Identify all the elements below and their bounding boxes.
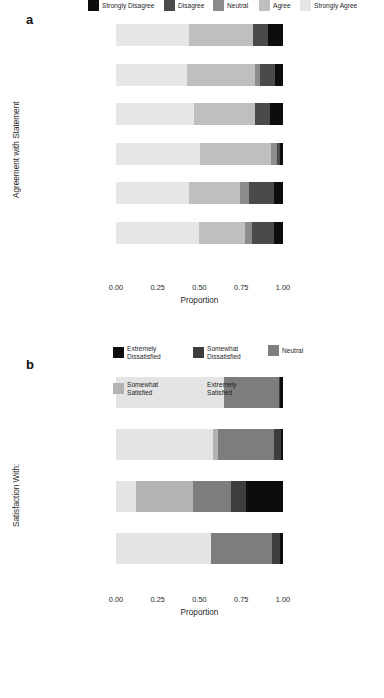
bar-segment bbox=[116, 143, 200, 165]
x-tick-label: 0.75 bbox=[234, 595, 248, 604]
bar-segment bbox=[193, 481, 231, 512]
panel-b-letter: b bbox=[26, 357, 34, 372]
legend-item: Neutral bbox=[213, 0, 248, 11]
stacked-bar bbox=[116, 533, 283, 564]
x-tick-label: 0.75 bbox=[234, 283, 248, 292]
legend-swatch-icon bbox=[193, 347, 204, 358]
x-axis-title: Proportion bbox=[116, 608, 283, 617]
bar-segment bbox=[116, 103, 194, 125]
bar-segment bbox=[200, 143, 271, 165]
legend-label: Somewhat Dissatisfied bbox=[207, 345, 241, 360]
stacked-bar bbox=[116, 481, 283, 512]
bar-segment bbox=[199, 222, 245, 244]
bar-segment bbox=[189, 182, 241, 204]
bar-segment bbox=[274, 182, 283, 204]
x-tick-label: 1.00 bbox=[276, 595, 290, 604]
bar-segment bbox=[268, 24, 283, 46]
bar-segment bbox=[194, 103, 255, 125]
stacked-bar bbox=[116, 103, 283, 125]
panel-a-y-axis-title: Agreement with Statement bbox=[12, 25, 21, 275]
bar-segment bbox=[260, 64, 275, 86]
bar-segment bbox=[211, 533, 272, 564]
x-tick-label: 0.00 bbox=[109, 595, 123, 604]
bar-segment bbox=[231, 481, 246, 512]
bar-segment bbox=[253, 24, 268, 46]
bar-segment bbox=[281, 429, 283, 460]
legend-swatch-icon bbox=[193, 383, 204, 394]
bar-segment bbox=[218, 429, 274, 460]
legend-item: Disagree bbox=[164, 0, 204, 11]
x-axis-title: Proportion bbox=[116, 296, 283, 305]
bar-segment bbox=[252, 222, 274, 244]
legend-label: Neutral bbox=[227, 2, 248, 10]
legend-item: Somewhat Dissatisfied bbox=[193, 345, 241, 360]
bar-segment bbox=[245, 222, 253, 244]
panel-b-y-axis-title: Satisfaction With: bbox=[12, 400, 21, 590]
legend-swatch-icon bbox=[268, 345, 279, 356]
bar-segment bbox=[270, 103, 283, 125]
bar-segment bbox=[272, 533, 280, 564]
bar-segment bbox=[249, 182, 274, 204]
bar-segment bbox=[274, 222, 283, 244]
legend-label: Strongly Agree bbox=[314, 2, 357, 10]
stacked-bar bbox=[116, 24, 283, 46]
legend-swatch-icon bbox=[259, 0, 270, 11]
bar-segment bbox=[116, 429, 213, 460]
legend-label: Extremely Satisfied bbox=[207, 381, 236, 396]
legend-label: Agree bbox=[273, 2, 291, 10]
legend-label: Neutral bbox=[282, 347, 303, 355]
bar-segment bbox=[136, 481, 193, 512]
panel-a-letter: a bbox=[26, 12, 33, 27]
bar-segment bbox=[116, 182, 189, 204]
stacked-bar bbox=[116, 222, 283, 244]
x-tick-label: 0.00 bbox=[109, 283, 123, 292]
stacked-bar bbox=[116, 64, 283, 86]
x-tick-label: 0.50 bbox=[192, 595, 206, 604]
bar-segment bbox=[116, 481, 136, 512]
bar-segment bbox=[187, 64, 255, 86]
legend-swatch-icon bbox=[164, 0, 175, 11]
legend-label: Disagree bbox=[178, 2, 204, 10]
bar-segment bbox=[116, 533, 211, 564]
stacked-bar bbox=[116, 429, 283, 460]
legend-item: Extremely Dissatisfied bbox=[113, 345, 161, 360]
legend-swatch-icon bbox=[113, 383, 124, 394]
legend-label: Somewhat Satisfied bbox=[127, 381, 158, 396]
legend-swatch-icon bbox=[88, 0, 99, 11]
x-tick-label: 0.25 bbox=[151, 283, 165, 292]
bar-segment bbox=[116, 64, 187, 86]
bar-segment bbox=[240, 182, 248, 204]
stacked-bar bbox=[116, 182, 283, 204]
legend-swatch-icon bbox=[213, 0, 224, 11]
legend-item: Somewhat Satisfied bbox=[113, 381, 158, 396]
legend-item: Extremely Satisfied bbox=[193, 381, 236, 396]
legend-swatch-icon bbox=[113, 347, 124, 358]
x-tick-label: 0.25 bbox=[151, 595, 165, 604]
bar-segment bbox=[116, 222, 199, 244]
legend-item: Agree bbox=[259, 0, 291, 11]
bar-segment bbox=[116, 24, 189, 46]
bar-segment bbox=[280, 143, 283, 165]
panel-a: a Agreement with Statement Would talk to… bbox=[0, 0, 384, 345]
legend-item: Neutral bbox=[268, 345, 303, 356]
legend-item: Strongly Disagree bbox=[88, 0, 154, 11]
panel-b: b Satisfaction With: Workplace environme… bbox=[0, 345, 384, 698]
x-tick-label: 1.00 bbox=[276, 283, 290, 292]
legend-item: Strongly Agree bbox=[300, 0, 357, 11]
bar-segment bbox=[280, 533, 283, 564]
legend-swatch-icon bbox=[300, 0, 311, 11]
bar-segment bbox=[189, 24, 253, 46]
bar-segment bbox=[274, 429, 282, 460]
bar-segment bbox=[280, 377, 283, 408]
x-tick-label: 0.50 bbox=[192, 283, 206, 292]
bar-segment bbox=[275, 64, 283, 86]
bar-segment bbox=[246, 481, 283, 512]
bar-segment bbox=[255, 103, 270, 125]
stacked-bar bbox=[116, 143, 283, 165]
legend-label: Extremely Dissatisfied bbox=[127, 345, 161, 360]
legend-label: Strongly Disagree bbox=[102, 2, 154, 10]
